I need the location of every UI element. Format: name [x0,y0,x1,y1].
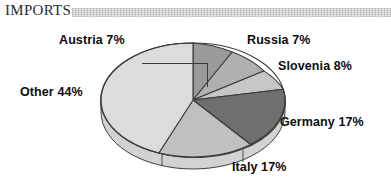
pie-chart-graphic [0,24,391,184]
austria-leader-line-horizontal [142,63,208,64]
austria-leader-line-vertical [207,63,208,87]
slice-label-austria: Austria 7% [59,33,125,47]
page-title: IMPORTS [5,2,71,19]
slice-label-other: Other 44% [20,85,83,99]
chart-header: IMPORTS [0,0,391,26]
header-decorative-band [72,8,391,17]
slice-label-slovenia: Slovenia 8% [278,59,352,73]
slice-label-italy: Italy 17% [232,160,286,174]
slice-label-germany: Germany 17% [280,115,364,129]
pie-chart [0,24,391,184]
chart-page: IMPORTS [0,0,391,184]
slice-label-russia: Russia 7% [247,33,310,47]
